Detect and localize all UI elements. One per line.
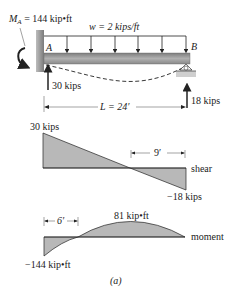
distributed-load	[44, 36, 186, 51]
moment-reaction-label: MA = 144 kip•ft	[8, 13, 72, 26]
point-b-label: B	[191, 41, 197, 52]
roller-support	[176, 64, 196, 77]
moment-max-label: 81 kip•ft	[114, 210, 149, 221]
moment-dim-label: 6′	[57, 215, 65, 226]
moment-diagram	[44, 217, 185, 256]
moment-arrow-icon	[18, 48, 25, 66]
reaction-b-label: 18 kips	[191, 95, 220, 106]
shear-dim-label: 9′	[154, 147, 161, 158]
shear-min-label: −18 kips	[167, 191, 202, 202]
moment-min-label: −144 kip•ft	[25, 259, 71, 270]
moment-leader	[20, 28, 25, 46]
load-label: w = 2 kips/ft	[89, 21, 140, 32]
shear-name-label: shear	[191, 163, 213, 174]
beam	[44, 53, 190, 64]
shear-diagram	[43, 133, 186, 190]
length-label: L = 24′	[99, 101, 130, 112]
shear-max-label: 30 kips	[30, 121, 59, 132]
reaction-a-label: 30 kips	[52, 80, 81, 91]
point-a-label: A	[45, 42, 53, 53]
deflection-curve	[46, 65, 186, 81]
figure-caption: (a)	[110, 275, 122, 287]
moment-name-label: moment	[191, 231, 224, 242]
beam-diagram: MA = 144 kip•ft w = 2 kips/ft A B 30 kip…	[0, 0, 234, 296]
fixed-wall	[36, 30, 44, 72]
